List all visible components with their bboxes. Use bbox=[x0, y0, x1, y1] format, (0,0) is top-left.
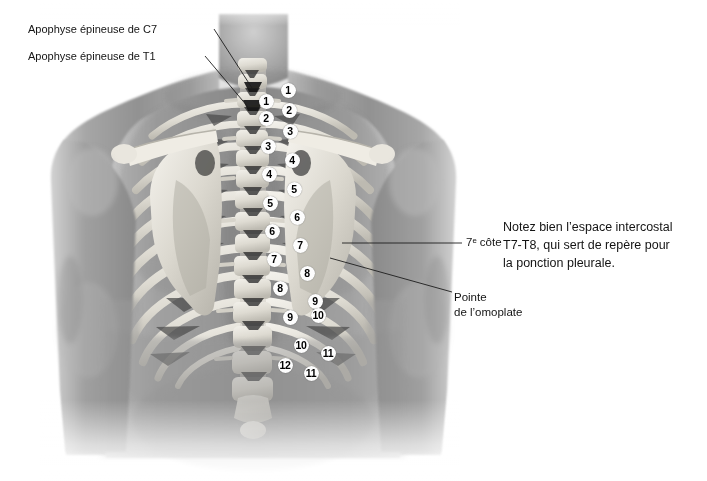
vertebra-marker-1: 1 bbox=[259, 94, 274, 109]
vertebra-marker-6: 6 bbox=[265, 224, 280, 239]
rib-marker-9: 9 bbox=[308, 294, 323, 309]
label-t1-spinous-process: Apophyse épineuse de T1 bbox=[28, 50, 156, 63]
label-scapula-tip: Pointe de l’omoplate bbox=[454, 290, 522, 320]
vertebra-marker-3: 3 bbox=[261, 139, 276, 154]
clinical-note-line1: Notez bien l’espace intercostal bbox=[503, 218, 699, 236]
clinical-note-line3: la ponction pleurale. bbox=[503, 254, 699, 272]
vertebra-marker-10: 10 bbox=[294, 338, 309, 353]
vertebra-marker-11: 11 bbox=[304, 366, 319, 381]
vertebra-marker-4: 4 bbox=[262, 167, 277, 182]
label-c7-spinous-process: Apophyse épineuse de C7 bbox=[28, 23, 157, 36]
vertebra-marker-2: 2 bbox=[259, 111, 274, 126]
rib-marker-1: 1 bbox=[281, 83, 296, 98]
vertebra-marker-9: 9 bbox=[283, 310, 298, 325]
label-scapula-tip-line1: Pointe bbox=[454, 290, 522, 305]
illustration-canvas: Apophyse épineuse de C7 Apophyse épineus… bbox=[0, 0, 707, 481]
rib-marker-11: 11 bbox=[321, 346, 336, 361]
clinical-note-line2: T7-T8, qui sert de repère pour bbox=[503, 236, 699, 254]
vertebra-marker-5: 5 bbox=[263, 196, 278, 211]
left-margin-mask bbox=[0, 0, 40, 481]
rib-marker-6: 6 bbox=[290, 210, 305, 225]
vertebra-marker-7: 7 bbox=[267, 252, 282, 267]
rib-marker-5: 5 bbox=[287, 182, 302, 197]
rib-marker-4: 4 bbox=[285, 153, 300, 168]
rib-marker-3: 3 bbox=[283, 124, 298, 139]
vertebra-marker-8: 8 bbox=[273, 281, 288, 296]
label-scapula-tip-line2: de l’omoplate bbox=[454, 305, 522, 320]
rib-marker-2: 2 bbox=[282, 103, 297, 118]
rib-marker-8: 8 bbox=[300, 266, 315, 281]
rib-marker-7: 7 bbox=[293, 238, 308, 253]
clinical-note: Notez bien l’espace intercostal T7-T8, q… bbox=[503, 218, 699, 272]
vertebra-marker-12: 12 bbox=[278, 358, 293, 373]
label-seventh-rib: 7ᵉ côte bbox=[466, 236, 502, 249]
rib-marker-10: 10 bbox=[311, 308, 326, 323]
